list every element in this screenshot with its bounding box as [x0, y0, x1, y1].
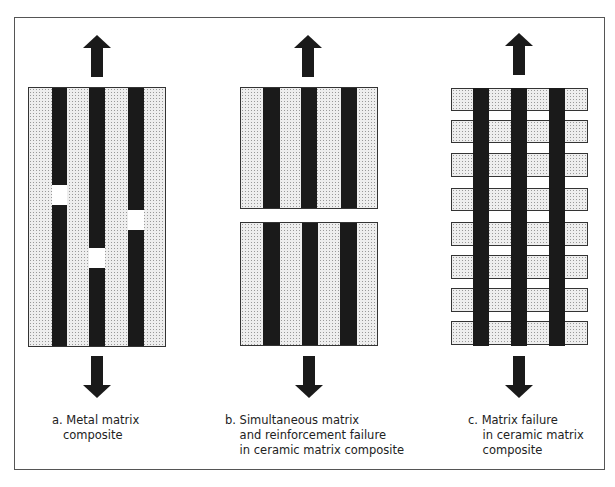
- tension-arrow-down-icon: [295, 356, 323, 398]
- lower-fragment: [240, 222, 378, 346]
- fiber-break: [128, 210, 144, 230]
- fiber: [511, 88, 527, 346]
- caption-b: b. Simultaneous matrix and reinforcement…: [225, 413, 404, 458]
- fiber: [340, 223, 357, 345]
- tension-arrow-up-icon: [83, 35, 111, 77]
- metal-matrix-block: [28, 87, 166, 347]
- fiber-break: [52, 185, 67, 205]
- fiber: [52, 88, 67, 346]
- fiber: [263, 223, 280, 345]
- fiber: [341, 88, 357, 208]
- tension-arrow-down-icon: [505, 356, 533, 398]
- fiber: [89, 88, 105, 346]
- caption-a: a. Metal matrix composite: [52, 413, 139, 443]
- fiber: [263, 88, 280, 208]
- fiber: [549, 88, 565, 346]
- fiber: [302, 223, 318, 345]
- caption-c: c. Matrix failure in ceramic matrix comp…: [468, 413, 584, 458]
- tension-arrow-down-icon: [83, 356, 111, 398]
- fiber-break: [89, 248, 105, 268]
- fiber: [473, 88, 489, 346]
- upper-fragment: [240, 87, 378, 209]
- fiber: [301, 88, 317, 208]
- tension-arrow-up-icon: [505, 33, 533, 75]
- tension-arrow-up-icon: [294, 35, 322, 77]
